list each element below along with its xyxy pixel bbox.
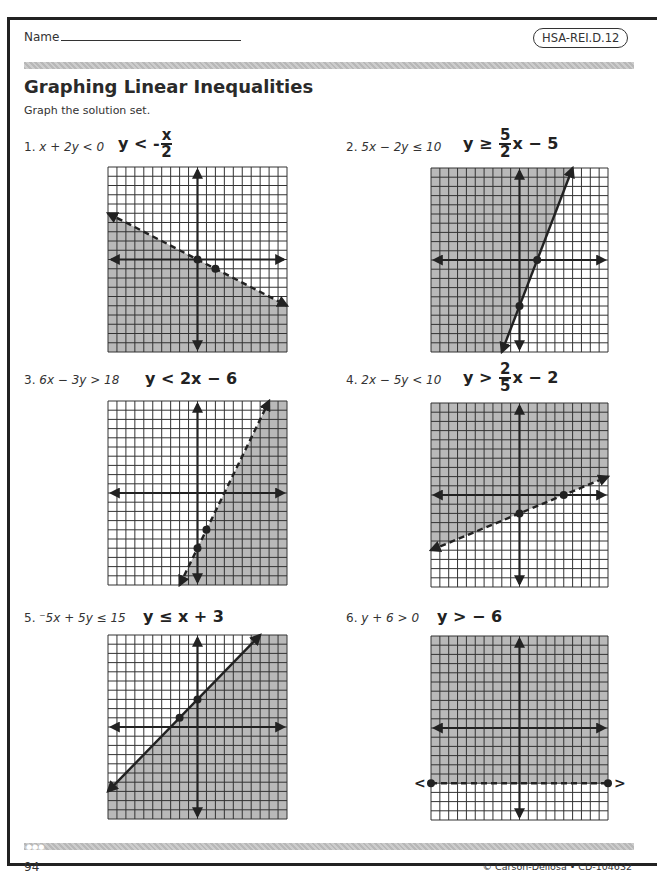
graph-4 [430,402,609,588]
page-number: 94 [24,860,39,874]
problem-3-label: 3. 6x − 3y > 18 [24,373,119,387]
problem-2-label: 2. 5x − 2y ≤ 10 [346,140,441,154]
graph-5 [107,634,288,820]
problem-5-label: 5. ⁻5x + 5y ≤ 15 [24,611,126,625]
name-field[interactable]: Name [24,30,241,44]
name-line[interactable] [61,30,241,41]
footer-dots-icon: ●●● [26,843,44,851]
footer-divider [24,843,634,850]
right-arrow-icon: > [614,775,626,791]
problem-4-label: 4. 2x − 5y < 10 [346,373,441,387]
graph-3 [107,400,288,586]
copyright: © Carson-Dellosa • CD-104632 [483,861,632,872]
header-divider [24,62,634,69]
problem-3-answer: y < 2x − 6 [145,369,237,388]
graph-6: <> [430,635,609,821]
problem-6-answer: y > − 6 [437,607,502,626]
problem-6-label: 6. y + 6 > 0 [346,611,419,625]
problem-1-answer: y < -x2 [118,128,173,160]
name-label: Name [24,30,59,44]
graph-1 [107,166,288,353]
standard-badge: HSA-REI.D.12 [533,28,628,48]
problem-5-answer: y ≤ x + 3 [143,607,224,626]
page-title: Graphing Linear Inequalities [24,76,313,97]
problem-2-answer: y ≥ 52x − 5 [463,128,558,160]
left-arrow-icon: < [414,775,426,791]
graph-2 [430,167,609,353]
problem-1-label: 1. x + 2y < 0 [24,140,104,154]
instructions: Graph the solution set. [24,104,150,117]
problem-4-answer: y > 25x − 2 [463,362,558,394]
